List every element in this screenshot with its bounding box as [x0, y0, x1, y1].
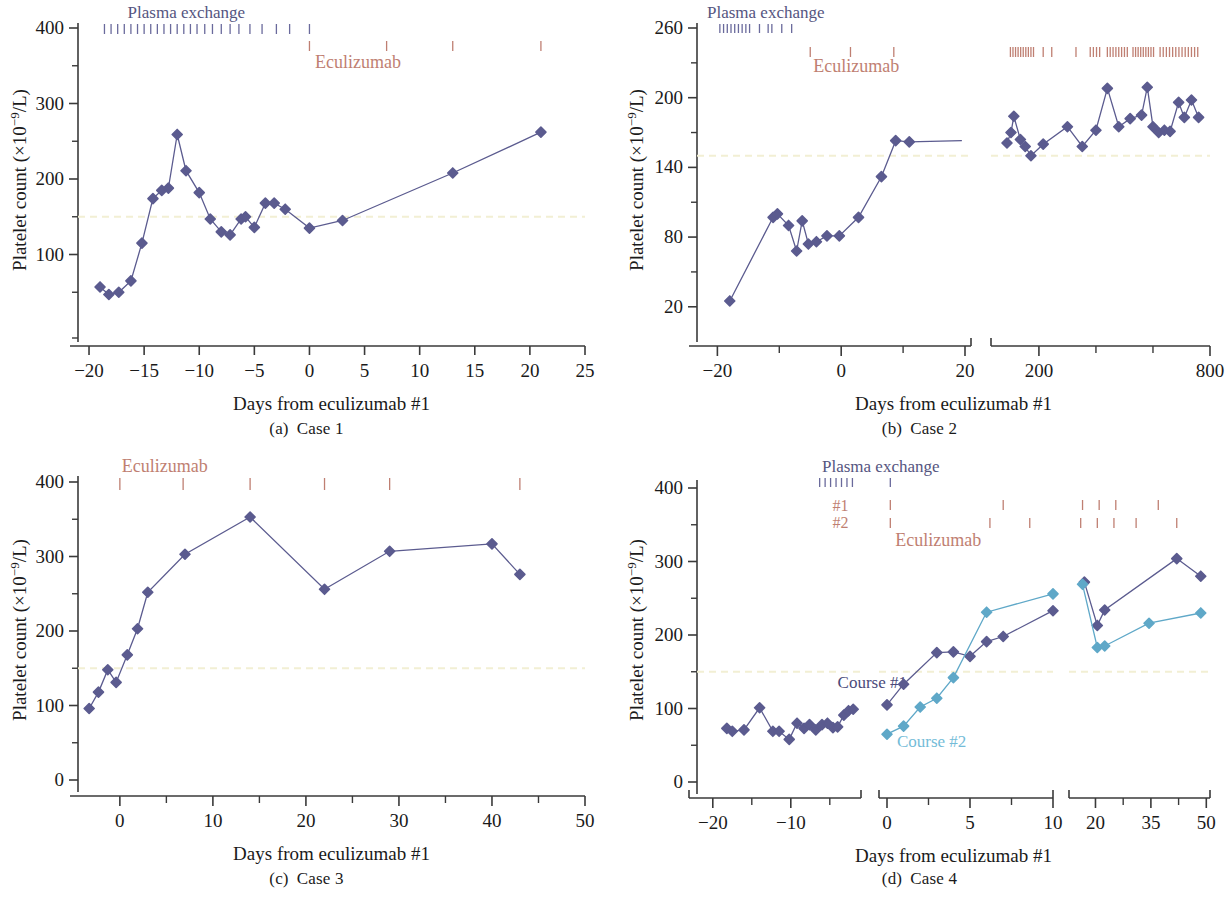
legend-eculizumab: Eculizumab	[122, 456, 208, 476]
data-point	[1172, 554, 1182, 564]
data-point	[1196, 571, 1206, 581]
data-point	[385, 546, 395, 556]
data-point	[536, 127, 546, 137]
data-point	[1062, 122, 1072, 132]
x-axis-tick-label: 20	[956, 360, 975, 381]
data-point	[1002, 138, 1012, 148]
data-point	[137, 238, 147, 248]
legend-eculizumab: Eculizumab	[895, 530, 981, 550]
caption-label-c: (c)	[269, 869, 288, 888]
series-line	[100, 132, 541, 294]
y-axis-tick-label: 300	[36, 546, 65, 567]
x-axis-tick-label: 50	[576, 810, 595, 831]
caption-title-a: Case 1	[297, 419, 344, 438]
data-point	[1125, 114, 1135, 124]
series-course2-treatment	[882, 589, 1058, 739]
chart-case-1: Platelet count (×10−9/L)100200300400−20−…	[0, 0, 613, 449]
legend-plasma-exchange: Plasma exchange	[707, 3, 825, 22]
data-point	[1142, 82, 1152, 92]
data-point	[103, 665, 113, 675]
data-point	[1048, 606, 1058, 616]
caption-title-d: Case 4	[910, 869, 957, 888]
y-axis-tick-label: 200	[655, 624, 684, 645]
y-axis-tick-label: 140	[655, 156, 684, 177]
x-axis-tick-label: 800	[1196, 360, 1225, 381]
caption-title-c: Case 3	[297, 869, 344, 888]
data-point	[122, 650, 132, 660]
data-point	[1194, 112, 1204, 122]
x-axis-tick-label: 20	[296, 810, 315, 831]
data-point	[797, 216, 807, 226]
data-point	[822, 231, 832, 241]
data-point	[755, 703, 765, 713]
data-point	[269, 198, 279, 208]
data-point	[1092, 620, 1102, 630]
data-point	[882, 729, 892, 739]
caption-label-a: (a)	[269, 419, 288, 438]
y-axis-title: Platelet count (×10−9/L)	[7, 539, 32, 721]
series-line	[1084, 559, 1200, 626]
data-point	[84, 703, 94, 713]
series-platelet-count	[95, 127, 546, 299]
data-point	[725, 296, 735, 306]
legend-eculizumab: Eculizumab	[315, 52, 401, 72]
x-axis-tick-label: −10	[184, 360, 214, 381]
data-point	[1196, 608, 1206, 618]
x-axis-tick-label: 0	[882, 812, 892, 833]
x-axis-tick-label: 10	[410, 360, 429, 381]
series-line	[89, 517, 520, 709]
data-point	[1179, 112, 1189, 122]
eculizumab-tick-row-2	[890, 518, 1176, 528]
series-platelet-count-right	[1002, 82, 1204, 161]
data-point	[998, 631, 1008, 641]
data-point	[133, 624, 143, 634]
data-point	[948, 647, 958, 657]
series-course1-baseline	[722, 703, 858, 745]
data-point	[1186, 95, 1196, 105]
series-line	[730, 141, 962, 301]
y-axis-tick-label: 260	[655, 17, 684, 38]
data-point	[876, 172, 886, 182]
caption-case-2: (b)Case 2	[613, 419, 1226, 439]
y-axis-tick-label: 400	[36, 471, 65, 492]
caption-case-1: (a)Case 1	[0, 419, 613, 439]
y-axis-tick-label: 100	[655, 698, 684, 719]
panel-case-2: Platelet count (×10−9/L)2080140200260−20…	[613, 0, 1226, 449]
panel-case-1: Platelet count (×10−9/L)100200300400−20−…	[0, 0, 613, 449]
y-axis-tick-label: 20	[664, 296, 683, 317]
data-point	[1174, 97, 1184, 107]
caption-label-d: (d)	[882, 869, 902, 888]
y-axis-tick-label: 300	[36, 93, 65, 114]
data-point	[792, 246, 802, 256]
data-point	[904, 137, 914, 147]
x-axis-tick-label: 0	[115, 810, 125, 831]
series-line	[1007, 87, 1199, 156]
eculizumab-tick-row-1	[890, 500, 1158, 510]
row-label-course-2: #2	[833, 514, 849, 531]
data-point	[1009, 111, 1019, 121]
caption-label-b: (b)	[882, 419, 902, 438]
data-point	[448, 168, 458, 178]
series-platelet-count	[84, 512, 525, 713]
data-point	[181, 166, 191, 176]
y-axis-tick-label: 0	[674, 771, 684, 792]
caption-case-4: (d)Case 4	[613, 869, 1226, 889]
x-axis-tick-label: 15	[465, 360, 484, 381]
x-axis-tick-label: −5	[244, 360, 264, 381]
x-axis-tick-label: 10	[1044, 812, 1063, 833]
data-point	[982, 607, 992, 617]
y-axis-title: Platelet count (×10−9/L)	[7, 89, 32, 271]
legend-eculizumab: Eculizumab	[813, 56, 899, 76]
legend-course-1: Course #1	[838, 673, 907, 692]
chart-case-2: Platelet count (×10−9/L)2080140200260−20…	[613, 0, 1226, 449]
y-axis-tick-label: 80	[664, 226, 683, 247]
data-point	[1114, 122, 1124, 132]
x-axis-tick-label: 35	[1141, 812, 1160, 833]
plasma-tick-row	[820, 478, 891, 487]
caption-title-b: Case 2	[910, 419, 957, 438]
plasma-tick-row	[720, 24, 792, 33]
chart-case-3: Platelet count (×10−9/L)0100200300400010…	[0, 450, 613, 899]
x-axis-title: Days from eculizumab #1	[233, 393, 430, 414]
y-axis-tick-label: 200	[36, 168, 65, 189]
x-axis-tick-label: −15	[129, 360, 159, 381]
